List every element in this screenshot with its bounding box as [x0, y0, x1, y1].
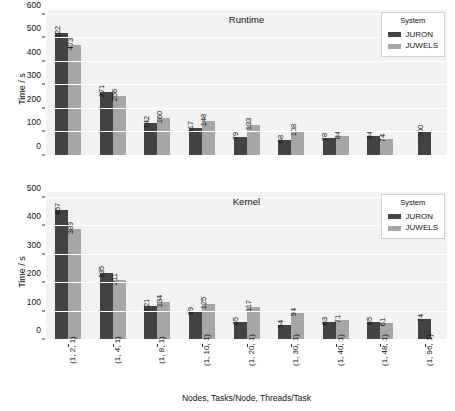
- bar-value-label: 256: [110, 88, 119, 101]
- gridline: [46, 311, 447, 312]
- y-tick-label: 200: [7, 94, 41, 104]
- y-tick-label: 400: [7, 211, 41, 221]
- x-tick-container: (1, 2, 1)(1, 4, 1)(1, 8, 1)(1, 10, 1)(1,…: [46, 344, 447, 394]
- bar-juwels[interactable]: [68, 229, 81, 340]
- bar-value-label: 160: [155, 111, 164, 124]
- bar-slot: 473: [68, 10, 81, 156]
- bar-slot: 142: [144, 10, 157, 156]
- y-tick-mark: [42, 155, 45, 156]
- bar-slot: 522: [55, 10, 68, 156]
- bar-value-label: 71: [333, 315, 342, 323]
- legend-swatch-juwels-icon: [388, 226, 401, 231]
- bar-value-label: 79: [231, 132, 240, 140]
- bar-value-label: 121: [142, 298, 151, 311]
- bar-value-label: 65: [365, 316, 374, 324]
- y-tick-label: 600: [7, 0, 41, 10]
- x-tick: (1, 8, 1): [135, 344, 180, 394]
- bar-group: 522473: [46, 10, 91, 156]
- bar-group: 142160: [135, 10, 180, 156]
- gridline: [46, 61, 447, 62]
- legend-kernel: System JURON JUWELS: [381, 194, 445, 239]
- y-tick-mark: [42, 339, 45, 340]
- bar-slot: 108: [291, 10, 304, 156]
- bar-group: 121134: [135, 192, 180, 340]
- y-tick-mark: [42, 60, 45, 61]
- bar-slot: 121: [144, 192, 157, 340]
- x-tick: (1, 20, 1): [224, 344, 269, 394]
- chart-panel-runtime: Time / s Runtime 52247327125614216011714…: [0, 0, 455, 178]
- bar-slot: 79: [234, 10, 247, 156]
- legend-label-juron: JURON: [406, 29, 434, 41]
- x-tick: (1, 30, 1): [269, 344, 314, 394]
- legend-label-juron: JURON: [406, 211, 434, 223]
- bar-juwels[interactable]: [113, 96, 126, 156]
- bar-value-label: 108: [289, 123, 298, 136]
- gridline: [46, 282, 447, 283]
- bar-value-label: 61: [378, 317, 387, 325]
- legend-swatch-juwels-icon: [388, 44, 401, 49]
- bar-slot: 94: [291, 192, 304, 340]
- bar-juwels[interactable]: [336, 136, 349, 156]
- bar-value-label: 148: [199, 114, 208, 127]
- bar-juwels[interactable]: [202, 121, 215, 156]
- x-tick-label: (1, 10, 1): [202, 334, 211, 366]
- figure-root: Time / s Runtime 52247327125614216011714…: [0, 0, 455, 411]
- bar-juwels[interactable]: [157, 302, 170, 340]
- bar-slot: 148: [202, 10, 215, 156]
- y-tick-mark: [42, 253, 45, 254]
- bar-value-label: 134: [155, 295, 164, 308]
- bar-slot: 54: [278, 192, 291, 340]
- bar-juron[interactable]: [100, 92, 113, 156]
- bar-group: 79133: [224, 10, 269, 156]
- bar-group: 117148: [180, 10, 225, 156]
- gridline: [46, 108, 447, 109]
- legend-label-juwels: JUWELS: [406, 40, 438, 52]
- bar-slot: 117: [189, 10, 202, 156]
- bar-group: 7884: [313, 10, 358, 156]
- bar-group: 457389: [46, 192, 91, 340]
- bar-value-label: 54: [276, 319, 285, 327]
- bar-value-label: 271: [97, 85, 106, 98]
- bar-slot: 256: [113, 10, 126, 156]
- legend-entry-juwels[interactable]: JUWELS: [388, 40, 438, 52]
- bar-slot: 271: [100, 10, 113, 156]
- legend-entry-juwels[interactable]: JUWELS: [388, 222, 438, 234]
- bar-group: 6371: [313, 192, 358, 340]
- y-tick-mark: [42, 282, 45, 283]
- x-tick-label: (1, 48, 1): [380, 334, 389, 366]
- legend-swatch-juron-icon: [388, 32, 401, 37]
- gridline: [46, 254, 447, 255]
- y-tick-mark: [42, 107, 45, 108]
- bar-slot: 117: [247, 192, 260, 340]
- y-tick-label: 200: [7, 268, 41, 278]
- x-tick: (1, 96, 1): [403, 344, 448, 394]
- legend-entry-juron[interactable]: JURON: [388, 211, 438, 223]
- bar-slot: 211: [113, 192, 126, 340]
- legend-entry-juron[interactable]: JURON: [388, 29, 438, 41]
- bar-group: 5494: [269, 192, 314, 340]
- y-tick-label: 100: [7, 297, 41, 307]
- x-tick: (1, 2, 1): [46, 344, 91, 394]
- y-tick-label: 0: [7, 325, 41, 335]
- bar-juwels[interactable]: [157, 118, 170, 156]
- bar-value-label: 211: [110, 273, 119, 285]
- gridline: [46, 84, 447, 85]
- bar-juron[interactable]: [234, 137, 247, 156]
- bar-juron[interactable]: [189, 312, 202, 340]
- y-tick-mark: [42, 37, 45, 38]
- bar-value-label: 473: [66, 37, 75, 50]
- y-tick-mark: [42, 84, 45, 85]
- x-tick-label: (1, 30, 1): [291, 334, 300, 366]
- bar-slot: 71: [336, 192, 349, 340]
- bar-slot: 99: [189, 192, 202, 340]
- bar-value-label: 125: [199, 297, 208, 310]
- y-tick-label: 400: [7, 47, 41, 57]
- y-tick-mark: [42, 131, 45, 132]
- y-tick-label: 0: [7, 141, 41, 151]
- y-tick-label: 300: [7, 240, 41, 250]
- bar-group: 99125: [180, 192, 225, 340]
- bar-value-label: 142: [142, 115, 151, 128]
- bar-slot: 125: [202, 192, 215, 340]
- x-tick: (1, 48, 1): [358, 344, 403, 394]
- bar-juron[interactable]: [55, 33, 68, 156]
